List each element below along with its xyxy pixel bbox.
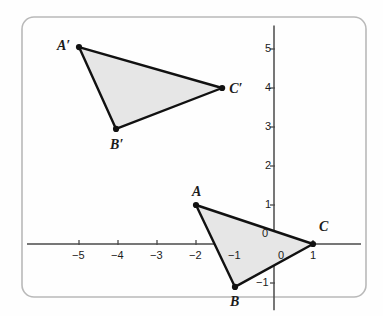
vertex-dot-Cprime — [219, 85, 225, 91]
vertex-label-C: C — [319, 220, 328, 234]
vertex-label-Bprime: B′ — [110, 138, 123, 152]
y-tick-label-5: −1 — [256, 277, 269, 288]
coordinate-plane-figure: −5−4−3−2−1154321−100ABCA′B′C′ — [0, 0, 383, 316]
origin-label-x: 0 — [278, 250, 284, 261]
x-tick-label-5: 1 — [310, 250, 316, 261]
y-tick-label-0: 5 — [265, 43, 271, 54]
y-tick-label-4: 1 — [265, 199, 271, 210]
vertex-dot-Bprime — [113, 126, 119, 132]
vertex-label-Cprime: C′ — [229, 82, 242, 96]
origin-label-y: 0 — [262, 228, 268, 239]
vertex-label-Aprime: A′ — [57, 39, 70, 53]
x-tick-label-2: −3 — [150, 250, 163, 261]
y-tick-label-2: 3 — [265, 121, 271, 132]
x-tick-label-1: −4 — [111, 250, 124, 261]
vertex-label-B: B — [230, 295, 239, 309]
vertex-dot-C — [310, 241, 316, 247]
y-tick-label-1: 4 — [265, 82, 271, 93]
vertex-dot-A — [193, 202, 199, 208]
y-tick-label-3: 2 — [265, 160, 271, 171]
vertex-label-A: A — [192, 185, 201, 199]
vertex-dot-Aprime — [76, 44, 82, 50]
x-tick-label-0: −5 — [72, 250, 85, 261]
x-tick-label-4: −1 — [228, 250, 241, 261]
vertex-dot-B — [232, 284, 238, 290]
x-tick-label-3: −2 — [189, 250, 202, 261]
